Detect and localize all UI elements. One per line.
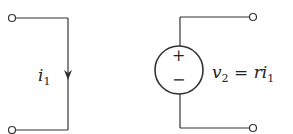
left-bottom-terminal — [9, 127, 16, 134]
current-label: i1 — [38, 65, 50, 88]
left-top-terminal — [9, 15, 16, 22]
minus-sign: − — [172, 70, 185, 89]
right-top-terminal — [250, 14, 257, 21]
right-bottom-terminal — [250, 125, 257, 132]
circuit-diagram: i1 + − v2 = ri1 — [0, 0, 293, 134]
plus-sign: + — [172, 46, 185, 65]
voltage-equation: v2 = ri1 — [212, 62, 274, 85]
